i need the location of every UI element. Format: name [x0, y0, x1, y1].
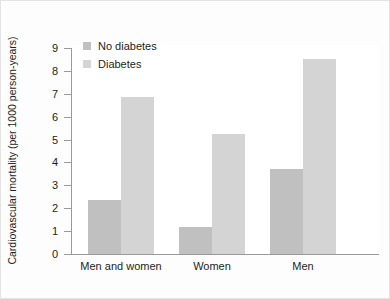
y-axis-tick-label: 3 [18, 180, 58, 191]
bar-no-diabetes-men-and-women [88, 200, 121, 254]
y-axis-title-text: Cardiovascular mortality (per 1000 perso… [6, 36, 18, 264]
legend-label: No diabetes [98, 41, 157, 52]
legend-item-no-diabetes: No diabetes [83, 38, 157, 54]
y-axis-tick-mark [64, 94, 71, 95]
y-axis-tick-label: 1 [18, 226, 58, 237]
bar-diabetes-men-and-women [121, 97, 154, 254]
plot-area [72, 45, 379, 254]
y-axis-tick-mark [64, 71, 71, 72]
legend-item-diabetes: Diabetes [83, 56, 157, 72]
x-axis-line [71, 254, 379, 255]
y-axis-tick-label: 8 [18, 65, 58, 76]
y-axis-tick-mark [64, 117, 71, 118]
y-axis-tick-label: 4 [18, 157, 58, 168]
y-axis-tick-label: 9 [18, 43, 58, 54]
y-axis-tick-mark [64, 162, 71, 163]
bar-diabetes-men [303, 59, 336, 254]
y-axis-tick-label: 5 [18, 134, 58, 145]
y-axis-tick-mark [64, 140, 71, 141]
y-axis-tick-mark [64, 48, 71, 49]
y-axis-tick-mark [64, 254, 71, 255]
chart-legend: No diabetesDiabetes [83, 38, 157, 74]
x-axis-label-men: Men [292, 260, 313, 272]
chart-figure: Cardiovascular mortality (per 1000 perso… [0, 0, 390, 299]
y-axis-tick-label: 0 [18, 249, 58, 260]
y-axis-tick-mark [64, 208, 71, 209]
y-axis-tick-label: 6 [18, 111, 58, 122]
y-axis-tick-label: 7 [18, 88, 58, 99]
bar-diabetes-women [212, 134, 245, 254]
x-axis-label-men-and-women: Men and women [80, 260, 161, 272]
x-axis-label-women: Women [193, 260, 231, 272]
bar-no-diabetes-men [270, 169, 303, 254]
legend-swatch-icon [83, 60, 91, 68]
y-axis-tick-label: 2 [18, 203, 58, 214]
y-axis-tick-mark [64, 231, 71, 232]
y-axis-tick-mark [64, 185, 71, 186]
legend-label: Diabetes [98, 59, 141, 70]
bar-no-diabetes-women [179, 227, 212, 254]
legend-swatch-icon [83, 42, 91, 50]
